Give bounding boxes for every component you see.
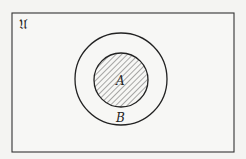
venn-diagram: 𝔘 A B	[0, 0, 246, 159]
set-b-label: B	[115, 111, 125, 125]
universe-label: 𝔘	[19, 17, 28, 32]
set-a-label: A	[115, 74, 125, 88]
